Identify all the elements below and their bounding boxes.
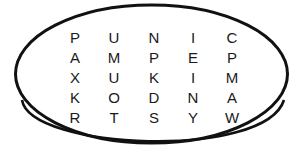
- grid-cell: W: [222, 109, 242, 127]
- grid-cell: U: [104, 29, 124, 47]
- grid-cell: N: [144, 29, 164, 47]
- grid-cell: P: [222, 49, 242, 67]
- grid-cell: Y: [183, 109, 203, 127]
- grid-cell: K: [65, 89, 85, 107]
- grid-cell: I: [183, 29, 203, 47]
- grid-cell: I: [183, 69, 203, 87]
- grid-cell: P: [144, 49, 164, 67]
- grid-cell: U: [104, 69, 124, 87]
- grid-cell: S: [144, 109, 164, 127]
- grid-cell: X: [65, 69, 85, 87]
- grid-cell: N: [183, 89, 203, 107]
- grid-cell: A: [65, 49, 85, 67]
- grid-cell: E: [183, 49, 203, 67]
- grid-cell: K: [144, 69, 164, 87]
- grid-cell: C: [222, 29, 242, 47]
- letter-grid: P U N I C A M P E P X U K I M K O D N A …: [0, 0, 295, 162]
- grid-cell: A: [222, 89, 242, 107]
- grid-cell: P: [65, 29, 85, 47]
- grid-cell: R: [65, 109, 85, 127]
- grid-cell: O: [104, 89, 124, 107]
- grid-cell: M: [222, 69, 242, 87]
- grid-cell: T: [104, 109, 124, 127]
- grid-cell: D: [144, 89, 164, 107]
- grid-cell: M: [104, 49, 124, 67]
